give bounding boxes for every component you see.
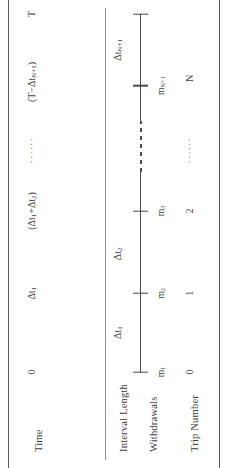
time-row: 0 Δt1 (Δt1+Δt2) ······ (T−ΔtN+1) T bbox=[26, 14, 52, 372]
time-value-0: 0 bbox=[26, 370, 37, 375]
withdrawal-label-m1: m1 bbox=[156, 367, 166, 378]
axis-segment-dashed bbox=[140, 121, 142, 171]
axis-tick-2 bbox=[133, 293, 148, 294]
time-ellipsis: ······ bbox=[26, 137, 36, 163]
row-label-withdrawals: Withdrawals bbox=[148, 397, 159, 452]
row-label-interval-length: Interval Length bbox=[118, 384, 129, 452]
figure-canvas: Time Interval Length Withdrawals Trip Nu… bbox=[0, 0, 228, 468]
axis-segment-left bbox=[140, 172, 141, 372]
interval-value-dt1: Δt1 bbox=[112, 326, 124, 339]
axis-tick-3 bbox=[133, 210, 148, 211]
axis-segment-right bbox=[140, 14, 141, 121]
axis-tick-1 bbox=[133, 371, 148, 372]
time-value-T: T bbox=[26, 11, 37, 17]
axis-tick-4 bbox=[133, 85, 148, 86]
table-top-rule bbox=[8, 0, 9, 468]
withdrawal-label-mN1: mN+1 bbox=[156, 76, 166, 95]
time-value-T-minus-dtN1: (T−ΔtN+1) bbox=[26, 62, 38, 102]
trip-value-2: 2 bbox=[184, 208, 195, 213]
timeline-figure: Time Interval Length Withdrawals Trip Nu… bbox=[0, 0, 228, 468]
trip-number-row: 0 1 2 ······ N bbox=[184, 14, 210, 372]
interval-value-dtN1: ΔtN+1 bbox=[112, 39, 124, 61]
trip-value-N: N bbox=[184, 75, 195, 82]
row-label-time: Time bbox=[33, 429, 44, 452]
interval-value-dt2: Δt2 bbox=[112, 248, 124, 261]
row-label-trip-number: Trip Number bbox=[189, 395, 200, 452]
withdrawal-label-m3: m3 bbox=[156, 206, 166, 217]
withdrawal-label-m2: m2 bbox=[156, 288, 166, 299]
time-value-dt1: Δt1 bbox=[26, 287, 38, 300]
trip-value-0: 0 bbox=[184, 370, 195, 375]
trip-ellipsis: ······ bbox=[184, 137, 194, 163]
table-mid-rule bbox=[105, 8, 106, 460]
trip-value-1: 1 bbox=[184, 291, 195, 296]
axis-tick-5 bbox=[133, 13, 148, 14]
withdrawals-axis: m1 m2 m3 mN+1 bbox=[126, 14, 156, 372]
time-value-dt1-dt2: (Δt1+Δt2) bbox=[26, 192, 38, 230]
table-bottom-rule bbox=[219, 0, 220, 468]
